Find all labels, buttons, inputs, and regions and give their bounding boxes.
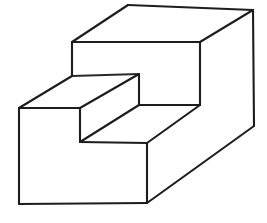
figure-canvas — [0, 0, 267, 223]
edge-lower-tread-front-edge — [80, 142, 147, 143]
isometric-step-block-drawing — [0, 0, 267, 223]
edge-right-outer-vertical-edge — [253, 10, 254, 126]
edge-front-bottom-edge — [19, 203, 147, 204]
